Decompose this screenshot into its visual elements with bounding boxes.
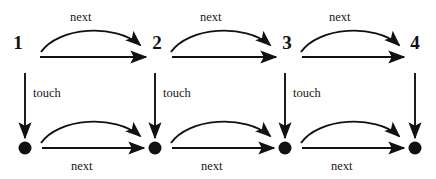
bottom-node-dot-1 (19, 142, 32, 155)
top-node-label-1: 1 (7, 33, 29, 52)
diagram-graphics (0, 0, 436, 179)
edge-label-touch-3: touch (293, 87, 321, 100)
edge-label-bottom-next-2: next (201, 160, 223, 173)
edge-label-bottom-next-1: next (71, 160, 93, 173)
diagram-canvas: 1 2 3 4 next next next touch touch touch… (0, 0, 436, 179)
top-curved-arrow-1-2 (41, 31, 140, 52)
edge-label-touch-2: touch (163, 87, 191, 100)
bottom-curved-arrow-3-4 (301, 122, 399, 143)
bottom-node-dot-3 (279, 142, 292, 155)
edge-label-touch-1: touch (33, 87, 61, 100)
bottom-curved-arrow-2-3 (171, 122, 270, 143)
bottom-node-dot-2 (149, 142, 162, 155)
edge-label-bottom-next-3: next (331, 160, 353, 173)
bottom-node-dot-4 (409, 142, 422, 155)
top-node-label-3: 3 (276, 33, 298, 52)
edge-label-top-next-1: next (70, 11, 92, 24)
top-node-label-2: 2 (146, 33, 168, 52)
top-curved-arrow-2-3 (171, 31, 270, 52)
edge-label-top-next-3: next (329, 11, 351, 24)
bottom-curved-arrow-1-2 (41, 122, 140, 143)
top-node-label-4: 4 (404, 33, 426, 52)
edge-label-top-next-2: next (200, 11, 222, 24)
top-curved-arrow-3-4 (301, 31, 399, 52)
